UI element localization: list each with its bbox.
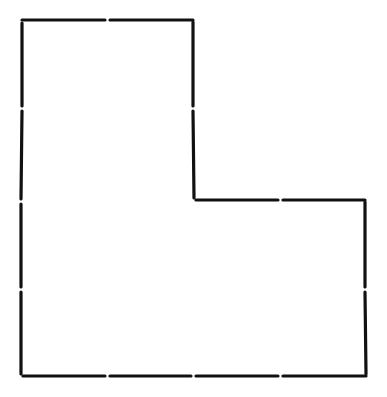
outline-segment — [21, 111, 22, 199]
outline-segment — [193, 111, 194, 198]
l-shape-diagram — [0, 0, 387, 397]
outline-segment — [365, 292, 366, 374]
